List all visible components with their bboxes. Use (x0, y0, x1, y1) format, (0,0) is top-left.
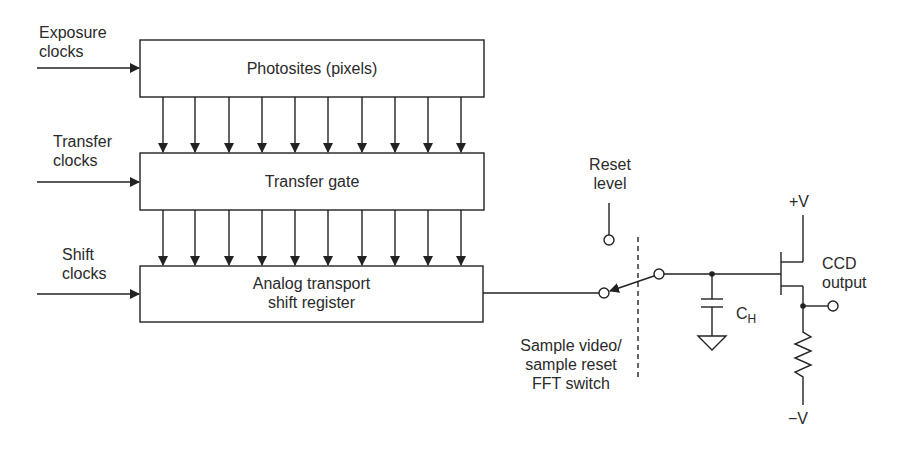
transfer-gate-label: Transfer gate (140, 172, 484, 191)
exposure-clocks-label: Exposure clocks (39, 23, 107, 61)
ground-icon (698, 336, 726, 350)
exposure-clocks-line2: clocks (39, 42, 107, 61)
reset-level-label: Reset level (584, 155, 636, 193)
negative-supply-label: −V (788, 409, 808, 428)
gate-to-register-arrows (163, 210, 461, 265)
exposure-clocks-line1: Exposure (39, 23, 107, 42)
positive-supply-label: +V (789, 192, 809, 211)
photosite-to-gate-arrows (163, 97, 461, 152)
transfer-clocks-label: Transfer clocks (53, 132, 112, 170)
switch-caption-line1: Sample video/ (505, 336, 637, 355)
ccd-output-label: CCD output (822, 254, 866, 292)
load-resistor-icon (795, 306, 811, 405)
transfer-clocks-line1: Transfer (53, 132, 112, 151)
switch-caption-line3: FFT switch (505, 374, 637, 393)
shift-register-line2: shift register (140, 293, 483, 312)
shift-register-line1: Analog transport (140, 274, 483, 293)
transfer-clocks-line2: clocks (53, 151, 112, 170)
switch-video-terminal (599, 288, 609, 298)
switch-caption: Sample video/ sample reset FFT switch (505, 336, 637, 393)
switch-caption-line2: sample reset (505, 355, 637, 374)
shift-clocks-label: Shift clocks (62, 245, 106, 283)
switch-arm (610, 276, 654, 291)
capacitor-label: CH (736, 304, 756, 325)
capacitor-label-main: C (736, 305, 748, 322)
reset-line2: level (584, 174, 636, 193)
hold-capacitor-icon (701, 274, 723, 336)
reset-line1: Reset (584, 155, 636, 174)
ccd-output-line1: CCD (822, 254, 866, 273)
transistor-icon (781, 215, 803, 306)
shift-clocks-line2: clocks (62, 264, 106, 283)
capacitor-label-subscript: H (748, 312, 757, 326)
shift-register-label: Analog transport shift register (140, 274, 483, 312)
switch-reset-terminal (604, 235, 614, 245)
ccd-output-line2: output (822, 273, 866, 292)
photosites-label: Photosites (pixels) (140, 59, 484, 78)
shift-clocks-line1: Shift (62, 245, 106, 264)
switch-pivot-terminal (654, 269, 664, 279)
ccd-output-terminal (828, 301, 838, 311)
